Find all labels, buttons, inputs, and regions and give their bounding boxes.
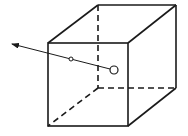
bottom-right-depth-edge: [128, 88, 176, 126]
source-point-icon: [110, 66, 118, 74]
top-left-depth-edge: [48, 5, 98, 43]
hidden-edges: [48, 5, 176, 126]
cube-diagram: [0, 0, 188, 136]
intersection-point-icon: [69, 57, 73, 61]
ray-arrow: [12, 44, 110, 69]
front-face: [48, 43, 128, 126]
diagram-canvas: [0, 0, 188, 136]
visible-edges: [48, 5, 176, 126]
top-right-depth-edge: [128, 5, 176, 43]
bottom-left-depth-edge: [48, 88, 98, 126]
